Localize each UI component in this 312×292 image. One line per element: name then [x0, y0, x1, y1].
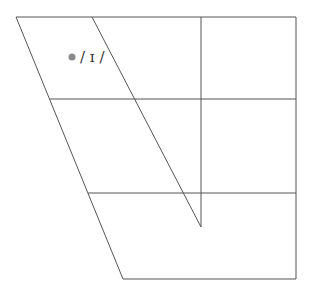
vowel-dot [69, 54, 76, 61]
vowel-chart: / ɪ / [0, 0, 312, 292]
vowel-label: / ɪ / [80, 48, 105, 66]
central-diagonal-line [92, 17, 201, 227]
chart-outline [16, 17, 296, 279]
